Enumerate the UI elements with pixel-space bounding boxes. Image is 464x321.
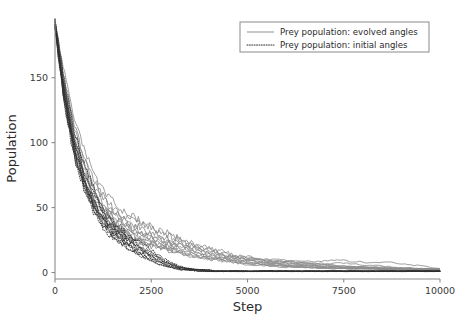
series-evolved-run-4 — [55, 21, 440, 268]
series-initial-run-1 — [55, 26, 440, 272]
y-tick-label-0: 0 — [42, 267, 48, 278]
x-axis-title: Step — [233, 299, 263, 314]
series-initial-run-2 — [55, 26, 440, 272]
figure-canvas: 050100150025005000750010000StepPopulatio… — [0, 0, 464, 321]
series-evolved-run-8 — [55, 19, 440, 269]
chart-legend[interactable]: Prey population: evolved anglesPrey popu… — [240, 22, 429, 52]
series-initial-run-10 — [55, 25, 440, 272]
legend-label-0: Prey population: evolved angles — [280, 27, 418, 37]
series-layer — [55, 19, 440, 272]
x-tick-label-10000: 10000 — [425, 285, 455, 296]
series-initial-run-9 — [55, 24, 440, 271]
series-initial-run-8 — [55, 26, 440, 272]
y-tick-label-100: 100 — [30, 137, 48, 148]
x-tick-label-2500: 2500 — [139, 285, 163, 296]
x-tick-label-0: 0 — [52, 285, 58, 296]
legend-label-1: Prey population: initial angles — [280, 40, 408, 50]
x-tick-label-5000: 5000 — [235, 285, 259, 296]
series-initial-run-5 — [55, 28, 440, 271]
y-tick-label-50: 50 — [36, 202, 48, 213]
y-tick-label-150: 150 — [30, 72, 48, 83]
x-tick-label-7500: 7500 — [332, 285, 356, 296]
series-initial-run-4 — [55, 28, 440, 271]
y-axis-title: Population — [4, 114, 19, 182]
axes-layer — [52, 18, 441, 283]
chart-svg: 050100150025005000750010000StepPopulatio… — [0, 0, 464, 321]
